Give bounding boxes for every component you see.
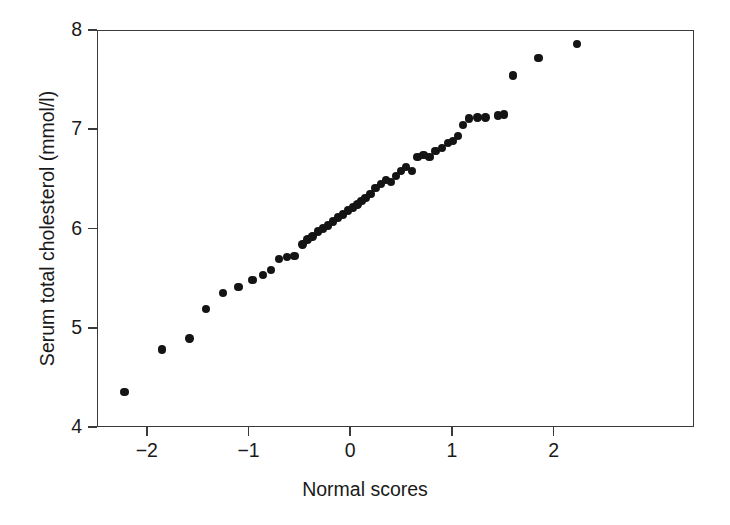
y-tick-mark xyxy=(88,29,97,31)
x-tick-mark xyxy=(248,427,250,436)
y-axis-title: Serum total cholesterol (mmol/l) xyxy=(34,30,60,427)
x-tick-label: 0 xyxy=(327,441,373,461)
x-tick-mark xyxy=(146,427,148,436)
x-tick-mark xyxy=(553,427,555,436)
y-tick-mark xyxy=(88,128,97,130)
plot-frame xyxy=(97,30,694,427)
x-axis-title: Normal scores xyxy=(0,478,730,501)
y-tick-mark xyxy=(88,228,97,230)
x-tick-label: −2 xyxy=(124,441,170,461)
qq-plot-figure: 45678 −2−1012 Normal scores Serum total … xyxy=(0,0,730,525)
y-tick-mark xyxy=(88,327,97,329)
x-tick-mark xyxy=(451,427,453,436)
x-tick-label: 1 xyxy=(429,441,475,461)
x-tick-mark xyxy=(349,427,351,436)
x-tick-label: 2 xyxy=(531,441,577,461)
x-tick-label: −1 xyxy=(226,441,272,461)
y-tick-mark xyxy=(88,426,97,428)
